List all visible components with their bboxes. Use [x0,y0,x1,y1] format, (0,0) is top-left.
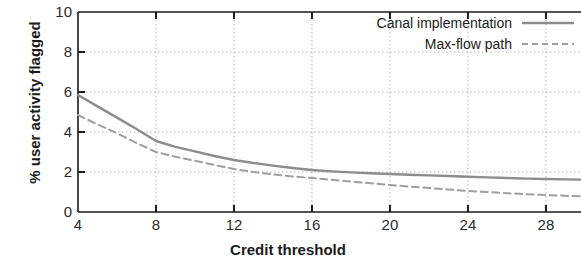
x-tick-label: 4 [58,217,98,232]
legend-label-canal-implementation: Canal implementation [377,15,520,31]
x-tick-label: 12 [214,217,254,232]
chart-legend: Canal implementation Max-flow path [330,12,576,54]
x-tick-label: 28 [526,217,566,232]
legend-line-sample-dashed [520,38,576,50]
x-tick-label: 8 [136,217,176,232]
legend-item: Canal implementation [330,12,576,33]
series-line-max-flow-path [78,115,581,196]
legend-item: Max-flow path [330,33,576,54]
x-tick-label: 24 [448,217,488,232]
series-line-canal-implementation [78,95,581,180]
legend-label-max-flow-path: Max-flow path [425,36,520,52]
x-axis-title: Credit threshold [78,241,498,258]
legend-line-sample-solid [520,17,576,29]
x-tick-label: 20 [370,217,410,232]
x-tick-label: 16 [292,217,332,232]
data-series-group [78,95,581,196]
line-chart-figure: % user activity flagged 0246810 48121620… [0,0,581,265]
x-axis-tick-labels: 481216202428 [0,217,581,239]
